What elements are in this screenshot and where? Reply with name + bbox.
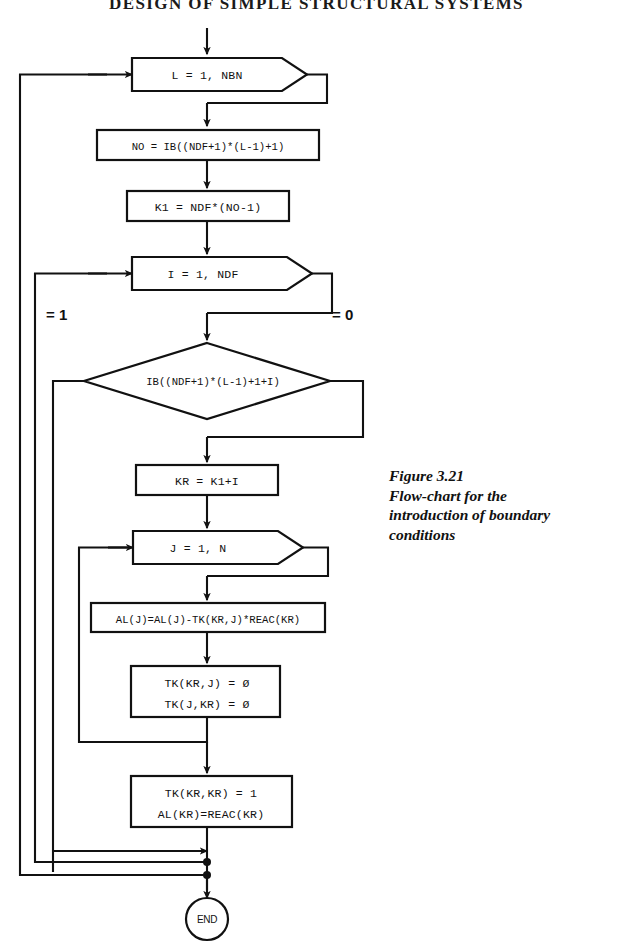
node-decision-label: IB((NDF+1)*(L-1)+1+I)	[146, 376, 280, 388]
node-no: NO = IB((NDF+1)*(L-1)+1)	[97, 130, 319, 160]
node-kr: KR = K1+I	[136, 465, 278, 495]
node-tk-zero-line1: TK(KR,J) = Ø	[164, 677, 249, 690]
figure-caption-line-3: introduction of boundary	[389, 505, 629, 525]
node-tk-one-line1: TK(KR,KR) = 1	[165, 787, 257, 800]
node-loop-l-label: L = 1, NBN	[171, 69, 242, 82]
node-end: END	[186, 898, 228, 940]
node-k1: K1 = NDF*(NO-1)	[127, 191, 289, 221]
node-decision: IB((NDF+1)*(L-1)+1+I)	[84, 343, 330, 419]
node-tk-zero-line2: TK(J,KR) = Ø	[164, 698, 249, 711]
decision-label-equals-one: = 1	[46, 306, 67, 323]
node-no-label: NO = IB((NDF+1)*(L-1)+1)	[132, 141, 285, 153]
figure-caption: Figure 3.21 Flow-chart for the introduct…	[389, 466, 629, 544]
node-loop-j-label: J = 1, N	[170, 542, 227, 555]
node-tk-one: TK(KR,KR) = 1 AL(KR)=REAC(KR)	[131, 776, 292, 827]
node-loop-i: I = 1, NDF	[132, 257, 312, 290]
figure-caption-line-1: Figure 3.21	[389, 466, 629, 486]
node-tk-one-line2: AL(KR)=REAC(KR)	[158, 808, 265, 821]
node-tk-zero: TK(KR,J) = Ø TK(J,KR) = Ø	[131, 666, 280, 717]
decision-label-equals-zero: = 0	[332, 306, 353, 323]
node-kr-label: KR = K1+I	[175, 475, 239, 488]
figure-caption-line-2: Flow-chart for the	[389, 486, 629, 506]
node-al-update-label: AL(J)=AL(J)-TK(KR,J)*REAC(KR)	[116, 614, 300, 626]
node-loop-l: L = 1, NBN	[132, 58, 307, 91]
node-end-label: END	[197, 914, 217, 925]
node-loop-j: J = 1, N	[133, 531, 303, 564]
junction-dot-i-loop	[203, 858, 211, 866]
node-al-update: AL(J)=AL(J)-TK(KR,J)*REAC(KR)	[91, 603, 325, 632]
page-canvas: DESIGN OF SIMPLE STRUCTURAL SYSTEMS L = …	[0, 0, 633, 946]
node-k1-label: K1 = NDF*(NO-1)	[155, 201, 262, 214]
figure-caption-line-4: conditions	[389, 525, 629, 545]
node-loop-i-label: I = 1, NDF	[167, 268, 238, 281]
